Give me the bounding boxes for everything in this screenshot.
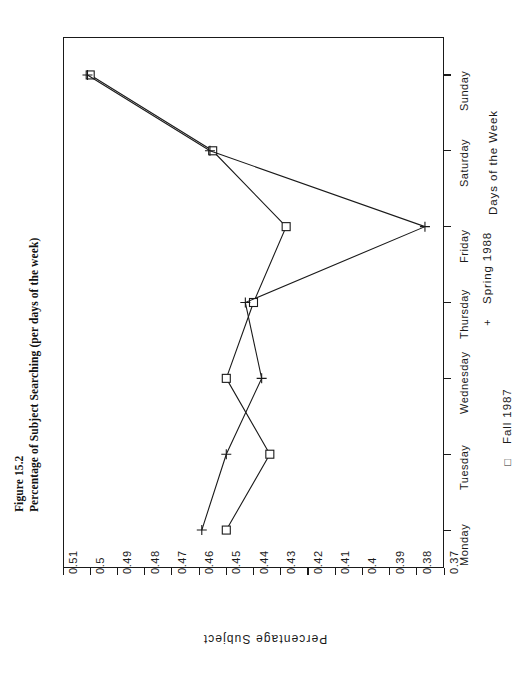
legend-label-fall-1987: Fall 1987 — [501, 388, 513, 443]
square-marker-icon — [222, 374, 230, 382]
category-axis-tick — [444, 74, 451, 75]
value-axis-tick — [253, 568, 254, 575]
chart-canvas: Percentage Subject Days of the Week □ Fa… — [0, 0, 521, 690]
series-fall-1987 — [86, 71, 290, 534]
value-axis-tick — [444, 568, 445, 575]
value-axis-tick — [335, 568, 336, 575]
category-axis-tick — [444, 530, 451, 531]
value-axis-tick-label: 0.51 — [67, 550, 79, 574]
value-axis-tick — [307, 568, 308, 575]
value-axis-tick-label: 0.45 — [230, 550, 242, 574]
plus-marker-icon — [420, 222, 430, 232]
value-axis-tick-label: 0.48 — [149, 550, 161, 574]
value-axis-tick-label: 0.41 — [339, 550, 351, 574]
value-axis-tick — [389, 568, 390, 575]
value-axis-tick — [90, 568, 91, 575]
legend-item-spring-1988: + Spring 1988 — [481, 232, 493, 330]
category-axis-label-thursday: Thursday — [458, 289, 470, 339]
plus-marker-icon — [197, 525, 207, 535]
category-axis-tick — [444, 150, 451, 151]
legend-label-spring-1988: Spring 1988 — [481, 232, 493, 304]
value-axis-tick — [280, 568, 281, 575]
plus-marker-icon — [240, 298, 250, 308]
series-layer — [63, 37, 444, 568]
category-axis-tick — [444, 226, 451, 227]
legend-item-fall-1987: □ Fall 1987 — [501, 388, 513, 470]
value-axis-tick-label: 0.49 — [121, 550, 133, 574]
value-axis-tick-label: 0.46 — [203, 550, 215, 574]
value-axis-tick-label: 0.42 — [312, 550, 324, 574]
value-axis-tick — [117, 568, 118, 575]
category-axis-label-tuesday: Tuesday — [458, 445, 470, 490]
category-axis-label-saturday: Saturday — [458, 139, 470, 187]
square-marker-icon — [266, 450, 274, 458]
value-axis-tick-label: 0.43 — [285, 550, 297, 574]
value-axis-tick-label: 0.4 — [366, 557, 378, 574]
square-marker-icon — [222, 526, 230, 534]
value-axis-tick-label: 0.38 — [421, 550, 433, 574]
category-axis-tick — [444, 454, 451, 455]
value-axis-tick — [63, 568, 64, 575]
category-axis-tick — [444, 378, 451, 379]
category-axis-label-wednesday: Wednesday — [458, 352, 470, 414]
value-axis-tick — [171, 568, 172, 575]
plus-marker-icon: + — [481, 314, 493, 330]
value-axis-tick-label: 0.39 — [394, 550, 406, 574]
category-axis-label-monday: Monday — [458, 524, 470, 566]
value-axis-tick-label: 0.5 — [94, 557, 106, 574]
value-axis-tick — [226, 568, 227, 575]
category-axis-label-sunday: Sunday — [458, 71, 470, 111]
value-axis-tick — [416, 568, 417, 575]
category-axis-label-friday: Friday — [458, 229, 470, 263]
value-axis-tick — [144, 568, 145, 575]
category-axis-title: Days of the Week — [487, 110, 499, 215]
value-axis-tick-label: 0.47 — [176, 550, 188, 574]
square-marker-icon: □ — [501, 454, 513, 470]
value-axis-tick — [362, 568, 363, 575]
value-axis-tick — [199, 568, 200, 575]
value-axis-title: Percentage Subject — [170, 632, 360, 646]
square-marker-icon — [282, 223, 290, 231]
category-axis-tick — [444, 302, 451, 303]
plus-marker-icon — [257, 373, 267, 383]
value-axis-tick-label: 0.44 — [258, 550, 270, 574]
plus-marker-icon — [221, 449, 231, 459]
